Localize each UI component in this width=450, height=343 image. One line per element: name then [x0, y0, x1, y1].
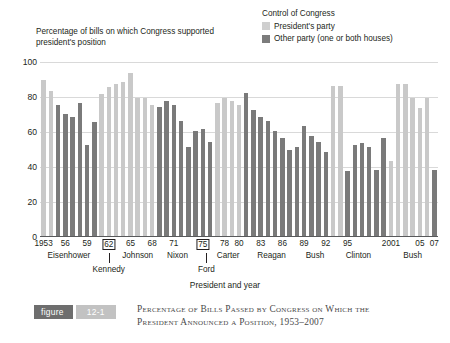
bar-1989: [302, 126, 306, 236]
x-axis-line: [40, 236, 438, 237]
bar-1959: [85, 145, 89, 236]
president-label-bush-1989: Bush: [306, 251, 325, 260]
president-label-carter-1977: Carter: [217, 251, 240, 260]
x-tick-1971: 71: [169, 239, 178, 248]
president-leader-line-kennedy: [109, 253, 110, 263]
bar-1978: [222, 98, 226, 236]
bar-2001: [389, 161, 393, 236]
bar-1995: [345, 171, 349, 236]
figure-number-badge: 12-1: [76, 305, 116, 319]
legend-label-other-party: Other party (one or both houses): [274, 33, 393, 45]
president-label-clinton-1993: Clinton: [346, 251, 372, 260]
bar-1999: [374, 170, 378, 237]
bar-1964: [121, 82, 125, 236]
caption-line-1: Percentage of Bills Passed by Congress o…: [137, 303, 437, 316]
bar-1998: [367, 147, 371, 236]
bar-2006: [425, 98, 429, 236]
bar-1979: [230, 101, 234, 236]
bar-series: [40, 62, 438, 237]
bar-2002: [396, 84, 400, 236]
president-label-johnson-1964: Johnson: [122, 251, 153, 260]
bar-1983: [258, 117, 262, 236]
bar-1993: [331, 86, 335, 237]
bar-1962: [107, 87, 111, 236]
x-tick-1953: 1953: [35, 239, 53, 248]
bar-2005: [418, 108, 422, 236]
plot-area: [40, 62, 438, 237]
bar-1966: [135, 98, 139, 236]
president-leader-line-ford: [206, 253, 207, 263]
x-tick-1986: 86: [278, 239, 287, 248]
y-axis-title: Percentage of bills on which Congress su…: [36, 26, 251, 48]
y-tick-40: 40: [27, 162, 37, 172]
president-label-kennedy-1961: Kennedy: [93, 265, 125, 274]
bar-1986: [280, 138, 284, 236]
president-labels-row2: KennedyFord: [40, 265, 438, 277]
other-party-swatch: [262, 35, 270, 43]
x-tick-1959: 59: [82, 239, 91, 248]
bar-1961: [99, 94, 103, 236]
bar-1968: [150, 105, 154, 236]
legend-item-presidents-party: President's party: [262, 21, 393, 33]
bar-1991: [316, 142, 320, 237]
bar-1972: [179, 121, 183, 237]
x-tick-1980: 80: [234, 239, 243, 248]
bar-1994: [338, 86, 342, 237]
y-tick-20: 20: [27, 197, 37, 207]
x-axis-title: President and year: [0, 280, 450, 290]
y-tick-80: 80: [27, 92, 37, 102]
bar-1988: [295, 147, 299, 236]
bar-1965: [128, 73, 132, 236]
x-tick-2007: 07: [430, 239, 439, 248]
bar-1974: [193, 131, 197, 236]
bar-1970: [164, 101, 168, 236]
figure-root: Control of Congress President's party Ot…: [0, 0, 450, 343]
bar-1984: [266, 121, 270, 237]
bar-1955: [56, 105, 60, 236]
x-tick-2005: 05: [415, 239, 424, 248]
bar-1987: [287, 150, 291, 236]
president-labels-row1: EisenhowerJohnsonNixonCarterReaganBushCl…: [40, 251, 438, 263]
bar-1981: [244, 93, 248, 237]
bar-1996: [353, 145, 357, 236]
bar-1997: [360, 143, 364, 236]
bar-1953: [41, 80, 45, 236]
x-axis-tick-labels: 1953565962656871757880838689929520010507: [40, 239, 438, 251]
x-tick-1978: 78: [220, 239, 229, 248]
bar-1967: [143, 98, 147, 236]
x-tick-1956: 56: [61, 239, 70, 248]
bar-1969: [157, 107, 161, 237]
bar-1957: [70, 117, 74, 236]
president-label-nixon-1969: Nixon: [167, 251, 188, 260]
x-tick-1992: 92: [321, 239, 330, 248]
x-tick-1995: 95: [343, 239, 352, 248]
bar-1973: [186, 147, 190, 236]
president-label-reagan-1981: Reagan: [257, 251, 286, 260]
bar-1956: [63, 114, 67, 237]
bar-1963: [114, 84, 118, 236]
bar-1960: [92, 122, 96, 236]
bar-1977: [215, 103, 219, 236]
x-tick-1989: 89: [300, 239, 309, 248]
x-tick-1975: 75: [196, 239, 209, 250]
bar-1980: [237, 105, 241, 236]
bar-2004: [410, 98, 414, 236]
bar-1971: [172, 105, 176, 236]
figure-caption-badge: figure 12-1: [34, 305, 116, 319]
y-tick-60: 60: [27, 127, 37, 137]
bar-1982: [251, 110, 255, 236]
bar-2000: [381, 138, 385, 236]
bar-2007: [432, 170, 436, 237]
bar-1985: [273, 131, 277, 236]
x-tick-1962: 62: [102, 239, 115, 250]
bar-1992: [324, 152, 328, 236]
x-tick-1965: 65: [126, 239, 135, 248]
presidents-party-swatch: [262, 22, 270, 30]
bar-1990: [309, 136, 313, 236]
president-label-ford-1975: Ford: [198, 265, 215, 274]
x-tick-1983: 83: [256, 239, 265, 248]
legend-label-presidents-party: President's party: [274, 21, 335, 33]
president-label-eisenhower-1953: Eisenhower: [48, 251, 91, 260]
y-tick-100: 100: [23, 57, 37, 67]
bar-1975: [201, 129, 205, 236]
